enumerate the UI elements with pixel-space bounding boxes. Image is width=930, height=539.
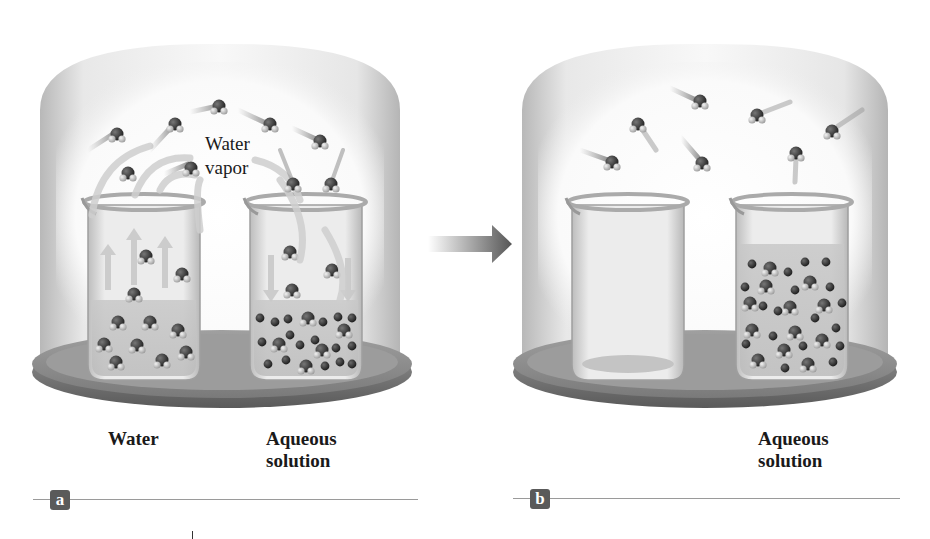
solution-beaker-b bbox=[730, 194, 852, 380]
solution-label-a-line1: Aqueous bbox=[266, 428, 337, 450]
water-beaker bbox=[82, 194, 204, 380]
solution-beaker-a bbox=[244, 194, 366, 380]
empty-beaker bbox=[566, 194, 688, 380]
panel-b bbox=[513, 44, 897, 408]
solution-beaker-label-a: Aqueous solution bbox=[266, 428, 337, 472]
solution-label-b-line1: Aqueous bbox=[758, 428, 829, 450]
water-vapor-label-line1: Water bbox=[205, 132, 250, 156]
solution-label-b-line2: solution bbox=[758, 450, 829, 472]
panel-b-rule bbox=[513, 498, 900, 499]
transition-arrow-icon bbox=[428, 225, 512, 263]
panel-a-badge: a bbox=[50, 490, 70, 510]
solution-label-a-line2: solution bbox=[266, 450, 337, 472]
panel-a-rule bbox=[33, 499, 418, 500]
water-vapor-label-line2: vapor bbox=[205, 156, 250, 180]
water-beaker-label: Water bbox=[108, 428, 159, 450]
panel-b-badge: b bbox=[530, 489, 550, 509]
water-vapor-label: Water vapor bbox=[205, 132, 250, 180]
solution-beaker-label-b: Aqueous solution bbox=[758, 428, 829, 472]
panel-a bbox=[32, 44, 412, 408]
tick-mark bbox=[192, 531, 193, 539]
